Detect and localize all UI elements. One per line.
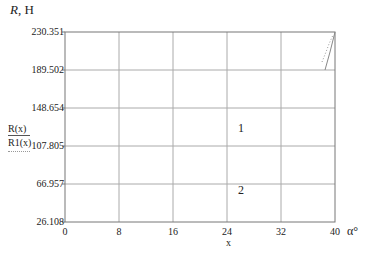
y-tick-label: 230.351 [6, 26, 64, 37]
legend-r-label: R(x) [8, 123, 26, 134]
curve-annotation-1: 1 [238, 121, 244, 136]
x-tick-label: 8 [109, 226, 129, 237]
y-axis-var: R [10, 2, 18, 17]
y-tick-label: 66.957 [6, 178, 64, 189]
y-tick-label: 189.502 [6, 64, 64, 75]
legend-r-line [8, 135, 30, 136]
legend-r1-line [8, 151, 30, 152]
x-tick-label: 0 [55, 226, 75, 237]
y-axis-unit: , H [18, 2, 34, 17]
x-unit-label: α° [347, 224, 358, 239]
legend-r1-label: R1(x) [8, 137, 31, 148]
x-tick-label: 40 [325, 226, 345, 237]
x-tick-label: 32 [271, 226, 291, 237]
plot-frame [65, 32, 335, 222]
grid-vertical [119, 32, 281, 222]
curve-annotation-2: 2 [238, 183, 244, 198]
x-tick-label: 24 [217, 226, 237, 237]
grid-horizontal [65, 70, 335, 184]
series-r [325, 32, 335, 70]
x-tick-label: 16 [163, 226, 183, 237]
x-axis-title: x [226, 237, 231, 248]
y-axis-title: R, H [10, 2, 34, 18]
y-tick-label: 148.654 [6, 102, 64, 113]
